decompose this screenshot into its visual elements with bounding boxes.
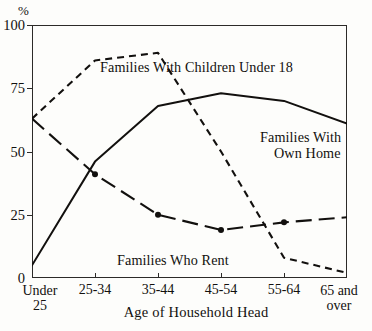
y-tick-label-50: 50 xyxy=(11,144,26,159)
x-tick-label-35-44: 35-44 xyxy=(142,283,175,298)
series-label-families-with-children-under-18: Families With Children Under 18 xyxy=(100,60,293,76)
x-tick-label-45-54: 45-54 xyxy=(205,283,238,298)
x-axis-title-text: Age of Household Head xyxy=(124,304,269,320)
series-line-families-with-children-under-18 xyxy=(32,53,347,273)
series-label-families-with-own-home: Families With Own Home xyxy=(260,130,341,162)
series-label-own-home-line2: Own Home xyxy=(260,146,341,162)
series-markers-families-who-rent xyxy=(92,171,287,233)
chart-figure: % 100 75 50 25 0 Under 25 25-34 35-44 45… xyxy=(0,0,372,331)
y-tick-label-25: 25 xyxy=(11,208,26,223)
x-tick-label-25-34: 25-34 xyxy=(79,283,112,298)
x-axis-title: Age of Household Head xyxy=(0,304,372,321)
series-label-families-who-rent: Families Who Rent xyxy=(117,253,229,269)
x-tick-label-under-25-line1: Under xyxy=(23,283,58,298)
data-point-marker xyxy=(155,212,161,218)
y-axis-unit-label: % xyxy=(18,4,29,17)
data-point-marker xyxy=(281,219,287,225)
series-label-own-home-line1: Families With xyxy=(260,129,341,145)
x-tick-label-55-64: 55-64 xyxy=(268,283,301,298)
plot-area: 100 75 50 25 0 Under 25 25-34 35-44 45-5… xyxy=(32,25,347,278)
y-tick-label-75: 75 xyxy=(11,81,26,96)
data-point-marker xyxy=(218,227,224,233)
x-tick-label-65-and-over-line1: 65 and xyxy=(320,283,358,298)
series-line-families-with-own-home xyxy=(32,93,347,265)
y-tick-label-100: 100 xyxy=(3,18,25,33)
data-point-marker xyxy=(92,171,98,177)
